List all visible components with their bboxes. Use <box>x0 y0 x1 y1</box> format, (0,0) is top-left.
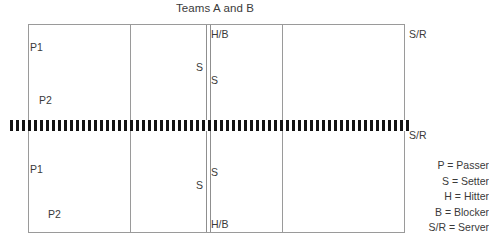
legend: P = Passer S = Setter H = Hitter B = Blo… <box>405 158 489 236</box>
bottom-setter-right-label: S <box>211 167 218 178</box>
bottom-setter-left-label: S <box>196 180 203 191</box>
top-passer-1-label: P1 <box>30 42 43 53</box>
top-setter-left-label: S <box>196 62 203 73</box>
diagram-title: Teams A and B <box>0 2 430 14</box>
net <box>10 120 412 131</box>
top-passer-2-label: P2 <box>39 95 52 106</box>
top-hitter-blocker-label: H/B <box>211 29 229 40</box>
bottom-passer-1-label: P1 <box>30 164 43 175</box>
legend-row-blocker: B = Blocker <box>405 205 489 221</box>
bottom-server-label: S/R <box>409 130 427 141</box>
top-setter-right-label: S <box>211 75 218 86</box>
top-server-label: S/R <box>409 29 427 40</box>
legend-row-server: S/R = Server <box>405 220 489 236</box>
bottom-hitter-blocker-label: H/B <box>211 219 229 230</box>
legend-row-setter: S = Setter <box>405 174 489 190</box>
legend-row-hitter: H = Hitter <box>405 189 489 205</box>
legend-row-passer: P = Passer <box>405 158 489 174</box>
bottom-passer-2-label: P2 <box>48 209 61 220</box>
volleyball-diagram: Teams A and B P1 P2 S S H/B S/R P1 P2 S … <box>0 0 489 242</box>
